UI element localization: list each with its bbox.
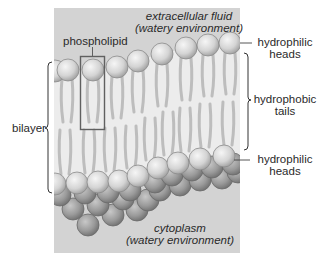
bilayer-brace [45,62,52,193]
cytoplasm-label: cytoplasm (watery environment) [125,222,235,246]
hydrophilic-heads-bottom-label: hydrophilic heads [252,153,318,177]
extracellular-label: extracellular fluid (watery environment) [134,10,244,34]
bilayer-label: bilayer [12,122,46,134]
hydrophobic-tails-label: hydrophobic tails [252,93,318,117]
tails-brace [244,53,251,150]
phospholipid-label: phospholipid [63,35,128,47]
hydrophilic-heads-top-label: hydrophilic heads [252,36,318,60]
